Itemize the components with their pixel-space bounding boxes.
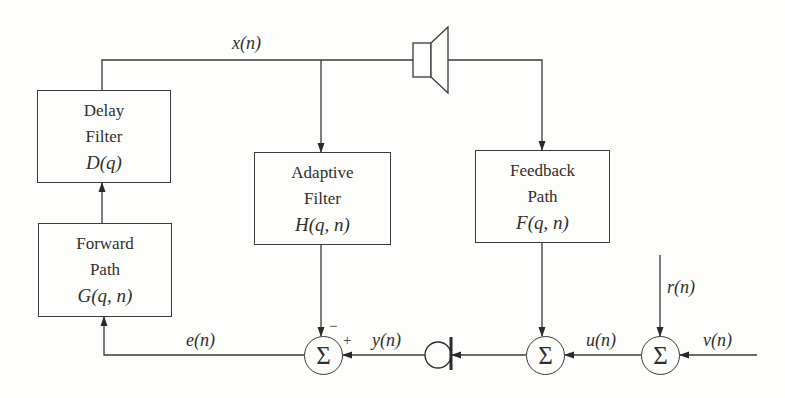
feedback-path-transfer-function: F(q, n) (516, 210, 569, 236)
forward-path-label-1: Forward (76, 231, 134, 257)
v-signal-label: v(n) (703, 330, 732, 351)
e-signal-label: e(n) (186, 330, 215, 351)
speaker-to-feedback-arrow (448, 60, 542, 150)
delay-filter-label-1: Delay (84, 98, 125, 124)
delay-filter-block: Delay Filter D(q) (37, 90, 171, 183)
delay-filter-transfer-function: D(q) (86, 150, 122, 176)
forward-path-transfer-function: G(q, n) (78, 283, 133, 309)
feedback-path-label-1: Feedback (510, 158, 575, 184)
summing-junction-1: Σ (304, 336, 343, 375)
loudspeaker-icon (413, 27, 448, 93)
sigma-symbol: Σ (316, 343, 331, 368)
x-signal-line (102, 60, 413, 90)
x-signal-label: x(n) (232, 33, 261, 54)
summing-junction-2: Σ (526, 336, 565, 375)
forward-path-label-2: Path (90, 257, 120, 283)
delay-filter-label-2: Filter (86, 124, 123, 150)
minus-sign: − (329, 318, 337, 335)
adaptive-filter-label-2: Filter (304, 186, 341, 212)
adaptive-filter-label-1: Adaptive (291, 160, 353, 186)
r-signal-label: r(n) (667, 277, 695, 298)
u-signal-label: u(n) (586, 330, 616, 351)
adaptive-filter-block: Adaptive Filter H(q, n) (254, 152, 391, 245)
plus-sign: + (343, 332, 351, 349)
sigma-symbol: Σ (653, 343, 668, 368)
summing-junction-3: Σ (641, 336, 680, 375)
adaptive-filter-transfer-function: H(q, n) (295, 212, 350, 238)
y-signal-label: y(n) (372, 330, 401, 351)
microphone-icon (425, 337, 451, 370)
forward-path-block: Forward Path G(q, n) (38, 223, 172, 317)
sigma-symbol: Σ (538, 343, 553, 368)
feedback-path-label-2: Path (527, 184, 557, 210)
feedback-path-block: Feedback Path F(q, n) (475, 150, 610, 243)
